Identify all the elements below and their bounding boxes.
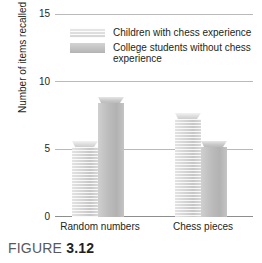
x-tick-label-chess-pieces: Chess pieces xyxy=(158,221,248,232)
chart-legend: Children with chess experience College s… xyxy=(70,27,260,68)
bar-front-face xyxy=(72,147,98,217)
bar-front-face xyxy=(201,147,227,217)
legend-label-children: Children with chess experience xyxy=(113,27,251,39)
y-axis-title: Number of items recalled xyxy=(17,0,28,133)
gridline-10 xyxy=(55,81,253,82)
legend-label-college: College students without chess experienc… xyxy=(113,42,260,65)
bar-front-face xyxy=(175,119,201,217)
figure-caption-number: 3.12 xyxy=(66,240,94,256)
bar-random-numbers-college xyxy=(98,97,124,217)
y-tick-label-15: 15 xyxy=(28,9,50,19)
y-tick-label-10: 10 xyxy=(28,77,50,87)
figure-caption-prefix: FIGURE xyxy=(8,240,62,256)
legend-swatch-college xyxy=(70,43,105,53)
y-tick-label-0: 0 xyxy=(28,212,50,222)
figure-3-12: Number of items recalled 15 10 5 0 Rando… xyxy=(0,0,262,263)
legend-item-college: College students without chess experienc… xyxy=(70,42,260,65)
bar-chess-pieces-college xyxy=(201,141,227,217)
gridline-15 xyxy=(55,14,253,15)
bar-random-numbers-children xyxy=(72,141,98,217)
bar-front-face xyxy=(98,103,124,217)
bar-chess-pieces-children xyxy=(175,113,201,217)
x-tick-label-random-numbers: Random numbers xyxy=(50,221,150,232)
legend-swatch-children xyxy=(70,28,105,38)
legend-item-children: Children with chess experience xyxy=(70,27,260,39)
figure-caption: FIGURE 3.12 xyxy=(8,240,94,256)
y-tick-label-5: 5 xyxy=(28,144,50,154)
